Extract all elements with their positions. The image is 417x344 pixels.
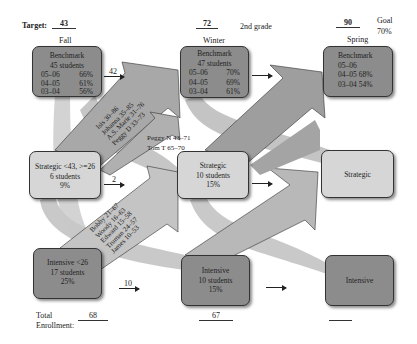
box-students: 45 students bbox=[33, 61, 101, 71]
grade-label: 2nd grade bbox=[240, 22, 272, 31]
box-title: Intensive bbox=[326, 276, 393, 286]
student-list-strategic-to-strategic: Peggy N 43–71 Tom T 65–70 bbox=[147, 133, 191, 153]
fall-target: 43 bbox=[52, 19, 76, 29]
box-title: Intensive <26 bbox=[34, 258, 101, 268]
target-label: Target: bbox=[22, 21, 47, 30]
winter-target: 72 bbox=[196, 19, 218, 29]
flow-count-benchmark: 42 bbox=[109, 67, 117, 76]
year-row: 04–0569% bbox=[181, 78, 248, 88]
year-row: 04–05 68% bbox=[338, 70, 392, 80]
flow-count-strategic: 2 bbox=[112, 175, 116, 184]
fall-benchmark-box: Benchmark 45 students 05–0666% 04–0561% … bbox=[32, 46, 102, 97]
spring-strategic-box: Strategic bbox=[321, 150, 394, 198]
fall-intensive-box: Intensive <26 17 students 25% bbox=[33, 248, 102, 299]
box-title: Strategic bbox=[178, 161, 248, 171]
year-row: 03–0456% bbox=[33, 88, 101, 96]
box-percent: 15% bbox=[182, 285, 249, 295]
right-arrow-icon bbox=[104, 76, 124, 77]
spring-benchmark-box: Benchmark 05–06 04–05 68% 03–04 54% bbox=[323, 46, 393, 97]
enrollment-label: Enrollment: bbox=[36, 321, 74, 330]
year-row: 03–0461% bbox=[181, 87, 248, 97]
right-arrow-icon bbox=[266, 287, 286, 288]
right-arrow-icon bbox=[252, 75, 272, 76]
winter-total: 67 bbox=[199, 311, 233, 321]
box-percent: 25% bbox=[34, 277, 101, 287]
box-title: Intensive bbox=[182, 266, 249, 276]
winter-benchmark-box: Benchmark 47 students 05–0670% 04–0569% … bbox=[180, 46, 249, 98]
right-arrow-icon bbox=[252, 183, 272, 184]
box-title: Benchmark bbox=[181, 49, 248, 59]
box-students: 47 students bbox=[181, 59, 248, 69]
spring-total bbox=[329, 311, 352, 321]
box-title: Benchmark bbox=[33, 51, 101, 61]
fall-strategic-box: Strategic <43, >=26 6 students 9% bbox=[29, 151, 101, 199]
fall-total: 68 bbox=[78, 311, 108, 321]
box-students: 6 students bbox=[30, 172, 100, 182]
box-title: Strategic bbox=[322, 170, 393, 180]
box-students: 10 students bbox=[178, 171, 248, 181]
box-title: Benchmark bbox=[338, 51, 392, 61]
right-arrow-icon bbox=[119, 288, 139, 289]
box-percent: 15% bbox=[178, 180, 248, 190]
goal-value: 70% bbox=[377, 27, 392, 36]
goal-label: Goal bbox=[377, 16, 393, 25]
box-students: 17 students bbox=[34, 268, 101, 278]
season-winter: Winter bbox=[203, 36, 225, 45]
year-row: 03–04 54% bbox=[338, 80, 392, 90]
flow-count-intensive: 10 bbox=[124, 279, 132, 288]
winter-strategic-box: Strategic 10 students 15% bbox=[177, 151, 249, 199]
year-row: 05–06 bbox=[338, 61, 392, 71]
box-percent: 9% bbox=[30, 181, 100, 191]
year-row: 05–0670% bbox=[181, 68, 248, 78]
winter-intensive-box: Intensive 10 students 15% bbox=[181, 255, 250, 306]
box-title: Strategic <43, >=26 bbox=[30, 162, 100, 172]
spring-target: 90 bbox=[336, 18, 360, 28]
season-fall: Fall bbox=[59, 36, 71, 45]
spring-intensive-box: Intensive bbox=[325, 255, 394, 306]
season-spring: Spring bbox=[347, 35, 368, 44]
box-students: 10 students bbox=[182, 276, 249, 286]
total-label: Total bbox=[36, 311, 52, 320]
right-arrow-icon bbox=[104, 184, 124, 185]
